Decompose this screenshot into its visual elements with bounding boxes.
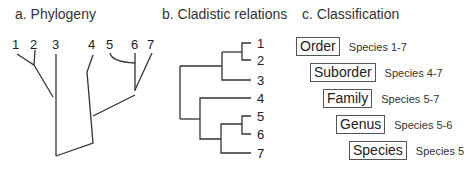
- cladogram: 1 2 3 4 5 6 7: [0, 0, 300, 171]
- clade-4-567: [200, 98, 251, 139]
- clado-leaf-5: 5: [257, 109, 264, 124]
- rank-box-genus: Genus: [336, 115, 385, 134]
- rank-row-family: Family Species 5-7: [323, 89, 439, 108]
- rank-members-family: Species 5-7: [381, 93, 439, 105]
- rank-box-suborder: Suborder: [310, 63, 376, 82]
- rank-members-order: Species 1-7: [349, 41, 407, 53]
- rank-members-suborder: Species 4-7: [385, 67, 443, 79]
- clade-567: [221, 124, 251, 153]
- rank-box-family: Family: [323, 89, 372, 108]
- rank-members-genus: Species 5-6: [394, 119, 452, 131]
- clade-5-6: [242, 116, 251, 134]
- clade-1-2: [242, 43, 251, 60]
- clado-leaf-7: 7: [257, 146, 264, 161]
- rank-row-suborder: Suborder Species 4-7: [310, 63, 443, 82]
- rank-row-order: Order Species 1-7: [296, 37, 407, 56]
- rank-box-species: Species: [349, 141, 407, 160]
- clado-leaf-2: 2: [257, 53, 264, 68]
- clado-leaf-6: 6: [257, 127, 264, 142]
- rank-members-species: Species 5: [416, 145, 464, 157]
- rank-row-genus: Genus Species 5-6: [336, 115, 452, 134]
- clado-leaf-1: 1: [257, 36, 264, 51]
- clade-3: [222, 66, 251, 80]
- clado-leaf-4: 4: [257, 91, 264, 106]
- clado-leaf-3: 3: [257, 73, 264, 88]
- rank-row-species: Species Species 5: [349, 141, 464, 160]
- classification-title: c. Classification: [302, 6, 399, 22]
- rank-box-order: Order: [296, 37, 340, 56]
